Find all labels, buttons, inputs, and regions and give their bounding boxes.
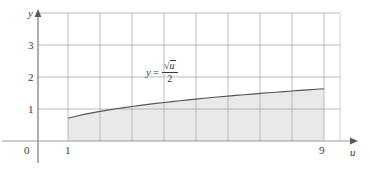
equation-numerator: √u — [162, 60, 178, 72]
equation-denominator: 2 — [165, 73, 174, 84]
y-axis-label: y — [28, 8, 33, 19]
y-tick-label-2: 2 — [28, 72, 34, 83]
equation-equals-sign: = — [153, 67, 159, 78]
y-tick-label-1: 1 — [28, 104, 34, 115]
equation-radicand: u — [170, 60, 176, 71]
equation-lhs: y — [146, 67, 151, 78]
figure-container: y u 0 1 2 3 1 9 y = √u 2 — [0, 0, 370, 171]
x-axis-arrowhead — [350, 138, 358, 145]
origin-tick-label: 0 — [24, 145, 30, 156]
y-tick-label-3: 3 — [28, 40, 34, 51]
x-tick-label-1: 1 — [65, 145, 71, 156]
x-axis-label: u — [350, 147, 356, 158]
plot-canvas — [0, 0, 370, 171]
x-tick-label-9: 9 — [319, 145, 325, 156]
equation-fraction: √u 2 — [162, 60, 178, 84]
curve-equation-annotation: y = √u 2 — [146, 60, 178, 84]
